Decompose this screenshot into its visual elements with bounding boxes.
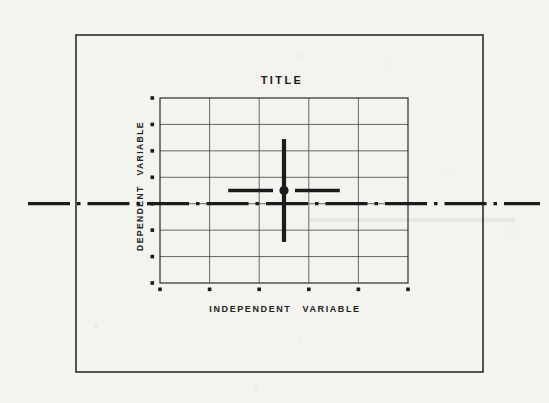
y-axis-tick: [151, 281, 155, 285]
x-axis-tick: [307, 288, 311, 292]
scan-speckle: [511, 231, 513, 233]
y-axis-tick: [151, 255, 155, 259]
x-axis-tick: [208, 288, 212, 292]
x-axis-label: INDEPENDENT VARIABLE: [209, 304, 360, 314]
data-point-marker: [279, 186, 288, 195]
y-axis-label: DEPENDENT VARIABLE: [135, 121, 145, 251]
y-axis-tick: [151, 175, 155, 179]
axis-ticks: [151, 96, 410, 291]
y-axis-tick: [151, 96, 155, 100]
chart-title: TITLE: [261, 74, 304, 86]
x-axis-tick: [357, 288, 361, 292]
scanned-figure-page: TITLE INDEPENDENT VARIABLE DEPENDENT VAR…: [0, 0, 549, 403]
scan-speckle: [299, 338, 301, 340]
y-axis-tick: [151, 149, 155, 153]
x-axis-tick: [406, 288, 410, 292]
scan-speckle: [255, 385, 257, 387]
y-axis-tick: [151, 228, 155, 232]
y-axis-tick: [151, 123, 155, 127]
data-point-with-error-bars: [228, 139, 340, 242]
chart-figure: TITLE INDEPENDENT VARIABLE DEPENDENT VAR…: [0, 0, 549, 403]
x-axis-tick: [158, 288, 162, 292]
x-axis-tick: [257, 288, 261, 292]
scan-speckle: [447, 171, 449, 173]
scan-speckle: [389, 63, 391, 65]
scan-noise: [95, 55, 515, 387]
scan-speckle: [300, 55, 302, 57]
scan-speckle: [95, 325, 98, 328]
scan-smudge: [310, 218, 515, 222]
